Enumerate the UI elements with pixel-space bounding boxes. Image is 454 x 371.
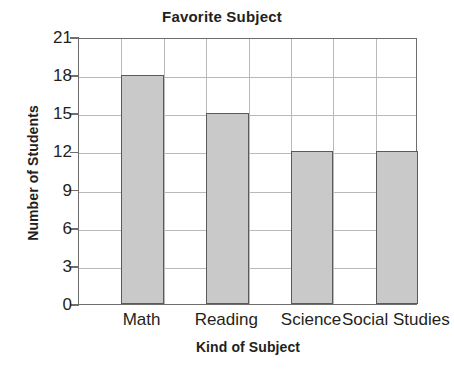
bar-reading	[206, 113, 248, 304]
x-axis-title: Kind of Subject	[78, 339, 418, 355]
y-axis-tick-label: 18	[32, 67, 72, 84]
gridline-vertical	[333, 39, 334, 304]
y-axis-tick-label: 6	[32, 220, 72, 237]
y-axis-tick-label: 15	[32, 105, 72, 122]
y-axis-tick-label: 3	[32, 258, 72, 275]
plot-area	[78, 38, 417, 305]
gridline-vertical	[249, 39, 250, 304]
gridline-vertical	[164, 39, 165, 304]
y-axis-tick-label: 9	[32, 182, 72, 199]
x-axis-tick-labels: MathReadingScienceSocial Studies	[0, 310, 444, 336]
bar-math	[121, 75, 163, 304]
x-axis-tick-label: Social Studies	[326, 310, 454, 330]
y-axis-tick-label: 21	[32, 29, 72, 46]
bar-science	[291, 151, 333, 304]
y-axis-tick-label: 12	[32, 143, 72, 160]
bar-social-studies	[376, 151, 418, 304]
